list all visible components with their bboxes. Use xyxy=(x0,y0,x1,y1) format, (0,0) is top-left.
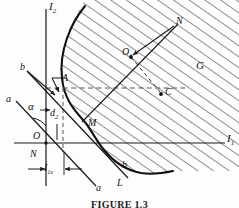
pointer-b-upper xyxy=(27,71,55,95)
label-angle-alpha: α xyxy=(28,101,34,112)
axis-label-i1: I1 xyxy=(227,133,234,147)
label-dimension-d2: d2 xyxy=(50,108,58,120)
label-point-n-origin: N xyxy=(30,149,37,159)
label-dimension-i1e: I1e xyxy=(44,163,53,175)
label-line-b-upper: b xyxy=(20,62,25,72)
label-region-g: G xyxy=(196,60,204,71)
figure-1-3: I2 I1 O N A M O1 C N G L b b a a α xyxy=(0,0,239,208)
label-origin-o: O xyxy=(33,131,40,141)
label-line-a-upper: a xyxy=(6,94,11,104)
label-line-a-lower: a xyxy=(96,183,101,193)
label-point-a: A xyxy=(62,73,68,83)
label-point-n-upper: N xyxy=(176,16,183,26)
marker-origin xyxy=(44,141,47,144)
label-point-o1: O1 xyxy=(122,47,132,59)
pointer-a-tick xyxy=(52,78,59,92)
label-curve-l: L xyxy=(117,178,123,188)
label-point-c: C xyxy=(165,87,172,97)
label-line-b-lower: b xyxy=(122,160,127,170)
marker-c xyxy=(159,92,163,96)
label-point-m: M xyxy=(88,118,96,128)
figure-caption: FIGURE 1.3 xyxy=(0,199,239,208)
axis-label-i2: I2 xyxy=(49,1,56,15)
